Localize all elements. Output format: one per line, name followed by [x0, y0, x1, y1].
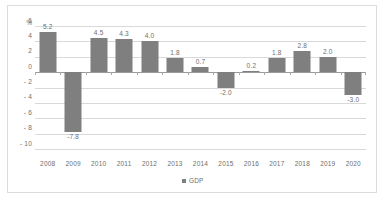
x-axis-tick: 2009: [66, 160, 81, 167]
y-axis-tick-labels: 6420- 2- 4- 6- 8- 10: [8, 20, 32, 155]
bar-slot: 4.5: [86, 26, 111, 149]
bar-value-label: 4.5: [94, 29, 104, 36]
chart-legend: GDP: [8, 177, 378, 184]
x-axis-tickmark: [264, 72, 265, 75]
bar-value-label: 5.2: [43, 23, 53, 30]
y-axis-tick: - 8: [8, 124, 32, 131]
x-axis-tick: 2013: [167, 160, 182, 167]
bar-slot: -3.0: [341, 26, 366, 149]
bar: [217, 72, 234, 87]
x-axis-tick: 2018: [295, 160, 310, 167]
y-axis-tick: - 2: [8, 78, 32, 85]
bar-slot: 1.8: [162, 26, 187, 149]
bar-slot: 2.8: [290, 26, 315, 149]
bar: [345, 72, 362, 95]
bar-slot: -7.8: [60, 26, 85, 149]
bar-slot: 2.0: [315, 26, 340, 149]
bar: [116, 39, 133, 72]
x-axis-tick: 2015: [218, 160, 233, 167]
x-axis-tickmark: [35, 72, 36, 75]
x-axis-tickmark: [290, 72, 291, 75]
bar-value-label: 2.0: [323, 48, 333, 55]
x-axis-tickmark: [239, 72, 240, 75]
x-axis-tick: 2020: [346, 160, 361, 167]
bar: [243, 71, 260, 73]
bar: [319, 57, 336, 72]
bar: [294, 51, 311, 73]
bar-value-label: 4.3: [119, 30, 129, 37]
bar-slot: 5.2: [35, 26, 60, 149]
bar-slot: 0.2: [239, 26, 264, 149]
bar-slot: 0.7: [188, 26, 213, 149]
x-axis-tick: 2011: [117, 160, 132, 167]
x-axis-tick: 2016: [244, 160, 259, 167]
y-axis-tick: 4: [8, 32, 32, 39]
x-axis-tickmark: [137, 72, 138, 75]
gridline: [35, 149, 366, 150]
x-axis-tick: 2017: [269, 160, 284, 167]
x-axis-tickmark: [86, 72, 87, 75]
bar: [192, 67, 209, 72]
y-axis-tick: - 4: [8, 93, 32, 100]
bar-slot: 4.0: [137, 26, 162, 149]
bar-value-label: 0.2: [247, 62, 257, 69]
x-axis-tickmark: [315, 72, 316, 75]
legend-label-gdp: GDP: [189, 177, 204, 184]
x-axis-tickmark: [60, 72, 61, 75]
x-axis-tickmark: [213, 72, 214, 75]
x-axis-tickmark: [341, 72, 342, 75]
x-axis-tick-labels: 2008200920102011201220132014201520162017…: [35, 160, 366, 172]
x-axis-tick: 2010: [91, 160, 106, 167]
x-axis-tickmark: [111, 72, 112, 75]
x-axis-tickmark: [365, 72, 366, 75]
bar: [39, 32, 56, 72]
legend-swatch-gdp: [182, 179, 186, 183]
bar-value-label: -2.0: [220, 89, 232, 96]
bar-value-label: 2.8: [298, 42, 308, 49]
y-axis-tick: - 10: [8, 140, 32, 147]
bar-value-label: 1.8: [272, 49, 282, 56]
x-axis-tick: 2008: [40, 160, 55, 167]
bar-value-label: 1.8: [170, 49, 180, 56]
y-axis-tick: 2: [8, 47, 32, 54]
bar: [167, 58, 184, 72]
bar-value-label: 4.0: [145, 32, 155, 39]
bar: [90, 38, 107, 73]
x-axis-tick: 2014: [193, 160, 208, 167]
bar-slot: 1.8: [264, 26, 289, 149]
x-axis-tickmark: [188, 72, 189, 75]
bar-value-label: -3.0: [347, 96, 359, 103]
y-axis-tick: - 6: [8, 109, 32, 116]
plot-area: 5.2-7.84.54.34.01.80.7-2.00.21.82.82.0-3…: [35, 26, 366, 149]
bar-slot: 4.3: [111, 26, 136, 149]
x-axis-tick: 2012: [142, 160, 157, 167]
bar-value-label: 0.7: [196, 58, 206, 65]
x-axis-tickmark: [162, 72, 163, 75]
bar: [141, 41, 158, 72]
x-axis-tick: 2019: [320, 160, 335, 167]
chart-container: % 6420- 2- 4- 6- 8- 10 5.2-7.84.54.34.01…: [7, 5, 377, 193]
y-axis-tick: 0: [8, 63, 32, 70]
bar: [268, 58, 285, 72]
bar: [65, 72, 82, 132]
bar-slot: -2.0: [213, 26, 238, 149]
bar-value-label: -7.8: [67, 133, 79, 140]
y-axis-tick: 6: [8, 17, 32, 24]
